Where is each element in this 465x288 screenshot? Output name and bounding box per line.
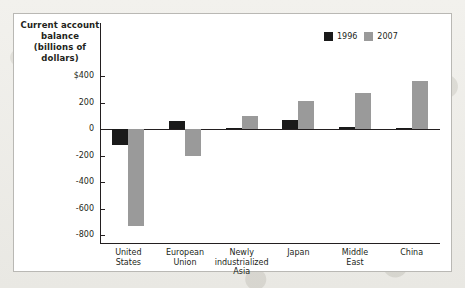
chart-figure: Current account balance (billions of dol… xyxy=(13,13,452,272)
y-tick-label: $400 xyxy=(48,72,94,80)
legend-label-2007: 2007 xyxy=(377,33,397,41)
y-tick-label: -400 xyxy=(48,178,94,186)
y-tick-mark xyxy=(100,76,105,77)
y-tick-label: -200 xyxy=(48,152,94,160)
y-tick-mark xyxy=(100,129,105,130)
bar-2007-united-states xyxy=(128,129,144,226)
y-tick-mark xyxy=(100,182,105,183)
bar-1996-european-union xyxy=(169,121,185,129)
y-tick-mark xyxy=(100,103,105,104)
bar-2007-european-union xyxy=(185,129,201,156)
bar-1996-middle-east xyxy=(339,127,355,129)
bar-2007-japan xyxy=(298,101,314,129)
x-category-label: China xyxy=(375,248,448,258)
y-tick-label: 200 xyxy=(48,99,94,107)
y-tick-mark xyxy=(100,156,105,157)
black-swatch-icon xyxy=(324,32,333,41)
y-tick-mark xyxy=(100,209,105,210)
bar-1996-china xyxy=(396,128,412,129)
x-axis-line xyxy=(100,243,440,244)
y-tick-label: -800 xyxy=(48,231,94,239)
zero-baseline xyxy=(100,129,440,130)
y-tick-mark xyxy=(100,235,105,236)
gray-swatch-icon xyxy=(364,32,373,41)
bar-1996-newly-industrialized-asia xyxy=(226,128,242,129)
bar-1996-japan xyxy=(282,120,298,129)
chart-legend: 1996 2007 xyxy=(324,32,398,41)
legend-item-2007: 2007 xyxy=(364,32,397,41)
y-tick-label: 0 xyxy=(48,125,94,133)
bar-chart-plot: Current account balance (billions of dol… xyxy=(14,14,453,273)
y-axis-line xyxy=(100,23,101,243)
legend-label-1996: 1996 xyxy=(337,33,357,41)
y-tick-label: -600 xyxy=(48,205,94,213)
bar-2007-china xyxy=(412,81,428,129)
legend-item-1996: 1996 xyxy=(324,32,357,41)
bar-1996-united-states xyxy=(112,129,128,145)
y-axis-title: Current account balance (billions of dol… xyxy=(20,20,100,64)
bar-2007-newly-industrialized-asia xyxy=(242,116,258,129)
bar-2007-middle-east xyxy=(355,93,371,129)
